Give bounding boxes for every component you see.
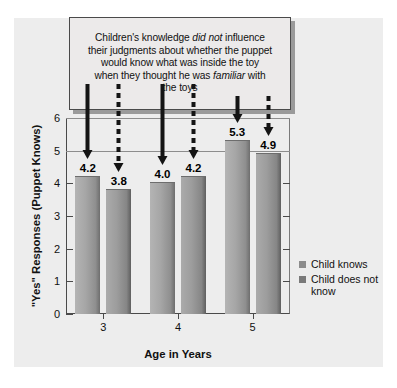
legend-swatch-icon <box>299 276 306 283</box>
arrow-head-icon <box>263 127 273 136</box>
y-axis-tick-label: 2 <box>54 243 60 255</box>
arrow-shaft <box>266 96 270 127</box>
arrow-shaft <box>161 84 165 156</box>
x-tick-mark <box>253 314 254 319</box>
y-axis-tick-label: 1 <box>54 275 60 287</box>
callout-text: Children's knowledge did not influence t… <box>82 32 278 95</box>
arrow-head-icon <box>158 156 168 165</box>
bar-value-label: 4.2 <box>186 162 202 174</box>
legend-label: Child knows <box>311 258 368 271</box>
bar: 4.2 <box>75 176 100 314</box>
gridline <box>66 118 290 119</box>
y-axis-tick-label: 5 <box>54 145 60 157</box>
bar-value-label: 5.3 <box>229 126 245 138</box>
annotation-arrow <box>158 84 167 165</box>
callout-line1-b: influence <box>222 32 265 43</box>
y-axis-tick-label: 3 <box>54 210 60 222</box>
annotation-arrow <box>233 96 242 123</box>
callout-line4-a: when they thought he was <box>94 70 213 81</box>
y-tick-mark-right <box>283 281 290 282</box>
legend-item-child-knows: Child knows <box>299 258 385 271</box>
callout-line4-emphasis: familiar <box>213 70 245 81</box>
bar: 4.2 <box>181 176 206 314</box>
y-tick-mark <box>66 281 73 282</box>
annotation-arrow <box>264 96 273 136</box>
callout-box: Children's knowledge did not influence t… <box>69 17 291 110</box>
y-tick-mark <box>66 216 73 217</box>
x-tick-mark <box>103 314 104 319</box>
callout-line4-b: with <box>245 70 265 81</box>
legend-swatch-icon <box>299 261 306 268</box>
bar: 4.0 <box>150 182 175 314</box>
gridline <box>66 151 290 152</box>
arrow-head-icon <box>83 150 93 159</box>
bar-value-label: 4.0 <box>155 168 171 180</box>
annotation-arrow <box>189 84 198 159</box>
arrow-shaft <box>235 96 239 114</box>
x-tick-mark <box>178 314 179 319</box>
x-axis-tick-label: 5 <box>250 321 256 333</box>
bar: 3.8 <box>106 189 131 314</box>
plot-area: 0123456 4.23.84.04.25.34.9 345 <box>66 118 290 314</box>
callout-line3: would know what was inside the toy <box>101 57 259 68</box>
arrow-shaft <box>192 84 196 150</box>
y-tick-mark <box>66 314 73 315</box>
y-tick-mark-right <box>283 249 290 250</box>
arrow-head-icon <box>189 150 199 159</box>
x-axis-tick-label: 3 <box>100 321 106 333</box>
callout-line1-a: Children's knowledge <box>95 32 192 43</box>
bar: 4.9 <box>256 153 281 314</box>
legend-label: Child does not know <box>311 273 385 298</box>
figure-container: Children's knowledge did not influence t… <box>0 0 397 388</box>
arrow-head-icon <box>114 163 124 172</box>
legend-item-child-does-not-know: Child does not know <box>299 273 385 298</box>
arrow-head-icon <box>232 114 242 123</box>
bar-value-label: 4.9 <box>260 139 276 151</box>
y-tick-mark <box>66 249 73 250</box>
y-tick-mark-right <box>283 216 290 217</box>
chart-legend: Child knows Child does not know <box>299 258 385 300</box>
annotation-arrow <box>114 84 123 172</box>
arrow-shaft <box>86 84 90 150</box>
bar-value-label: 3.8 <box>111 175 127 187</box>
annotation-arrow <box>83 84 92 159</box>
arrow-shaft <box>117 84 121 163</box>
y-axis-title: "Yes" Responses (Puppet Knows) <box>29 118 43 314</box>
callout-line1-emphasis: did not <box>192 32 222 43</box>
y-axis-tick-label: 4 <box>54 177 60 189</box>
bar-value-label: 4.2 <box>80 162 96 174</box>
callout-line2: their judgments about whether the puppet <box>88 45 272 56</box>
x-axis-title: Age in Years <box>66 348 290 360</box>
x-axis-tick-label: 4 <box>175 321 181 333</box>
y-axis-tick-label: 6 <box>54 112 60 124</box>
bar: 5.3 <box>225 140 250 314</box>
y-axis-tick-label: 0 <box>54 308 60 320</box>
y-tick-mark-right <box>283 183 290 184</box>
y-tick-mark <box>66 183 73 184</box>
